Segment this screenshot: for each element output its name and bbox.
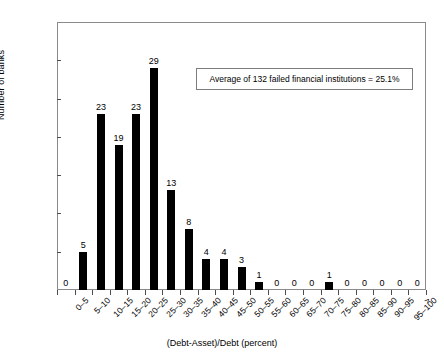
x-tick-mark: [57, 290, 58, 295]
bar-value-label: 0: [54, 279, 78, 288]
bars-layer: 05231923291384431000100000: [0, 0, 444, 290]
bar: [185, 229, 193, 290]
x-tick-mark: [110, 290, 111, 295]
bar: [220, 259, 228, 290]
x-tick-label: 5–10: [93, 296, 113, 316]
average-annotation-box: Average of 132 failed financial institut…: [196, 68, 413, 90]
average-annotation-text: Average of 132 failed financial institut…: [209, 74, 399, 84]
bar-value-label: 0: [300, 279, 324, 288]
bar-value-label: 3: [230, 256, 254, 265]
bar-value-label: 19: [107, 134, 131, 143]
bar-value-label: 0: [405, 279, 429, 288]
bar: [115, 145, 123, 290]
x-tick-mark: [75, 290, 76, 295]
bar-value-label: 13: [159, 179, 183, 188]
x-tick-mark: [92, 290, 93, 295]
bar-value-label: 8: [177, 218, 201, 227]
bar: [132, 114, 140, 290]
bar: [325, 282, 333, 290]
bar-value-label: 29: [142, 57, 166, 66]
bar: [97, 114, 105, 290]
bar: [167, 190, 175, 290]
x-axis-title: (Debt-Asset)/Debt (percent): [0, 338, 444, 348]
x-tick-label: 0–5: [74, 296, 90, 312]
bar: [255, 282, 263, 290]
x-tick-mark: [426, 290, 427, 295]
bar: [150, 68, 158, 290]
bar: [238, 267, 246, 290]
bar-chart-figure: Number of banks 05101520253035 052319232…: [0, 0, 444, 360]
bar: [79, 252, 87, 290]
bar: [202, 259, 210, 290]
x-tick-label: 10–15: [112, 296, 135, 319]
bar-value-label: 23: [124, 103, 148, 112]
bar-value-label: 5: [71, 241, 95, 250]
bar-value-label: 23: [89, 103, 113, 112]
